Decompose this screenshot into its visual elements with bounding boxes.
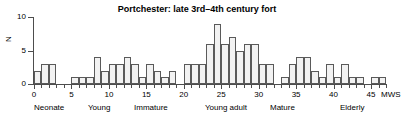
x-tick-major	[146, 85, 147, 89]
histogram-bar	[221, 44, 228, 84]
x-tick-major	[296, 85, 297, 89]
x-tick-minor	[236, 85, 237, 88]
x-tick-minor	[191, 85, 192, 88]
histogram-bar	[79, 77, 86, 84]
x-tick-label: 40	[319, 90, 349, 99]
x-tick-major	[109, 85, 110, 89]
histogram-bar	[251, 44, 258, 84]
x-tick-label: 35	[281, 90, 311, 99]
x-tick-major	[371, 85, 372, 89]
histogram-bars	[34, 17, 386, 84]
x-tick-label: 25	[206, 90, 236, 99]
y-axis-label: N	[4, 36, 13, 42]
histogram-bar	[266, 64, 273, 84]
x-tick-minor	[214, 85, 215, 88]
histogram-bar	[334, 77, 341, 84]
age-stage-label: Mature	[270, 103, 295, 112]
histogram-bar	[41, 64, 48, 84]
histogram-bar	[199, 64, 206, 84]
x-tick-minor	[86, 85, 87, 88]
x-tick-minor	[161, 85, 162, 88]
x-tick-minor	[304, 85, 305, 88]
y-tick-label: 0	[22, 79, 26, 88]
x-tick-minor	[356, 85, 357, 88]
x-tick-minor	[289, 85, 290, 88]
histogram-bar	[311, 71, 318, 84]
histogram-bar	[289, 64, 296, 84]
x-tick-label: 15	[131, 90, 161, 99]
histogram-bar	[191, 64, 198, 84]
x-tick-minor	[49, 85, 50, 88]
histogram-bar	[206, 44, 213, 84]
histogram-bar	[109, 64, 116, 84]
y-tick	[28, 84, 33, 85]
histogram-bar	[319, 77, 326, 84]
histogram-bar	[379, 77, 386, 84]
x-tick-minor	[274, 85, 275, 88]
histogram-bar	[371, 77, 378, 84]
x-tick-major	[334, 85, 335, 89]
x-tick-minor	[79, 85, 80, 88]
histogram-bar	[116, 64, 123, 84]
x-tick-major	[34, 85, 35, 89]
x-tick-minor	[199, 85, 200, 88]
x-tick-minor	[124, 85, 125, 88]
x-tick-major	[221, 85, 222, 89]
x-tick-minor	[139, 85, 140, 88]
y-tick	[28, 51, 33, 52]
chart-title: Portchester: late 3rd–4th century fort	[0, 4, 394, 14]
histogram-bar	[124, 57, 131, 84]
histogram-bar	[356, 77, 363, 84]
histogram-bar	[259, 64, 266, 84]
x-tick-minor	[176, 85, 177, 88]
x-tick-minor	[131, 85, 132, 88]
histogram-bar	[154, 71, 161, 84]
x-tick-minor	[94, 85, 95, 88]
histogram-bar	[304, 57, 311, 84]
y-tick	[28, 17, 33, 18]
age-stage-label: Elderly	[340, 103, 364, 112]
x-tick-minor	[364, 85, 365, 88]
x-tick-minor	[379, 85, 380, 88]
x-tick-minor	[326, 85, 327, 88]
histogram-bar	[296, 57, 303, 84]
histogram-bar	[281, 77, 288, 84]
x-tick-major	[71, 85, 72, 89]
histogram-bar	[349, 77, 356, 84]
histogram-bar	[184, 64, 191, 84]
age-stage-label: Young adult	[205, 103, 247, 112]
x-tick-minor	[154, 85, 155, 88]
x-tick-minor	[251, 85, 252, 88]
histogram-bar	[341, 64, 348, 84]
x-tick-minor	[206, 85, 207, 88]
x-tick-minor	[341, 85, 342, 88]
x-tick-minor	[281, 85, 282, 88]
age-stage-label: Neonate	[34, 103, 64, 112]
histogram-bar	[86, 77, 93, 84]
histogram-bar	[214, 24, 221, 84]
histogram-bar	[139, 77, 146, 84]
histogram-bar	[131, 64, 138, 84]
plot-area	[34, 17, 386, 84]
histogram-bar	[236, 51, 243, 85]
x-tick-minor	[319, 85, 320, 88]
x-tick-minor	[266, 85, 267, 88]
x-tick-minor	[56, 85, 57, 88]
x-tick-label: 30	[244, 90, 274, 99]
y-tick-label: 10	[17, 12, 26, 21]
x-tick-minor	[116, 85, 117, 88]
histogram-bar	[229, 37, 236, 84]
x-tick-minor	[41, 85, 42, 88]
histogram-bar	[101, 71, 108, 84]
x-tick-minor	[386, 85, 387, 88]
histogram-bar	[34, 71, 41, 84]
histogram-bar	[71, 77, 78, 84]
y-tick-label: 5	[22, 46, 26, 55]
x-tick-label: 5	[56, 90, 86, 99]
x-tick-label: 10	[94, 90, 124, 99]
histogram-bar	[161, 77, 168, 84]
x-tick-major	[184, 85, 185, 89]
x-tick-minor	[349, 85, 350, 88]
x-tick-minor	[101, 85, 102, 88]
